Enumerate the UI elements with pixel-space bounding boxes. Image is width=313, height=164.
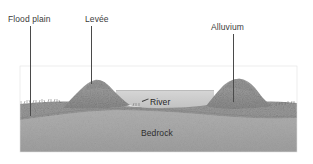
illustration-panel [20,66,297,152]
leader-line-flood-plain [30,26,31,116]
label-flood-plain: Flood plain [8,14,51,24]
label-river: River [150,97,170,107]
leader-line-alluvium [233,34,234,102]
cross-section-illustration [0,0,313,164]
label-bedrock: Bedrock [141,128,173,138]
label-alluvium: Alluvium [211,22,244,32]
diagram-figure: Flood plain Levée Alluvium River Bedrock [0,0,313,164]
leader-line-levee [91,26,92,84]
label-levee: Levée [85,14,109,24]
